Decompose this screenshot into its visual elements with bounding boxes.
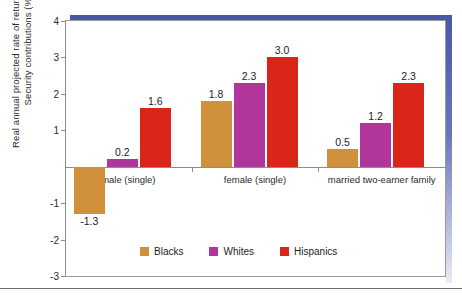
legend-label-hispanics: Hispanics — [294, 246, 337, 257]
bar-value-label: 1.2 — [360, 110, 391, 122]
decorative-right-bar — [446, 15, 452, 283]
y-tick-mark — [61, 203, 65, 204]
category-divider-tick — [318, 167, 319, 172]
bar-value-label: 3.0 — [267, 44, 298, 56]
y-tick-label: 4 — [53, 16, 59, 27]
legend-item-blacks[interactable]: Blacks — [140, 246, 183, 257]
chart-plot-area: 4321-1-2-3male (single)-1.30.21.6female … — [65, 21, 445, 276]
legend-swatch-hispanics — [280, 247, 289, 256]
legend-item-whites[interactable]: Whites — [209, 246, 254, 257]
bottom-divider — [0, 288, 462, 289]
bar-value-label: 1.6 — [140, 95, 171, 107]
x-category-label: female (single) — [224, 174, 286, 185]
bar-value-label: 1.8 — [201, 88, 232, 100]
y-tick-label: 2 — [53, 88, 59, 99]
y-tick-mark — [61, 276, 65, 277]
bar-value-label: 2.3 — [393, 70, 424, 82]
y-tick-label: -3 — [50, 271, 59, 282]
legend-swatch-blacks — [140, 247, 149, 256]
y-tick-label: -1 — [50, 198, 59, 209]
y-tick-label: 3 — [53, 52, 59, 63]
chart-legend: Blacks Whites Hispanics — [140, 246, 337, 257]
bar-whites-1[interactable] — [234, 83, 265, 167]
y-axis-line — [65, 21, 66, 276]
y-tick-label: -2 — [50, 234, 59, 245]
bar-hispanics-1[interactable] — [267, 57, 298, 166]
bar-blacks-2[interactable] — [327, 149, 358, 167]
y-tick-mark — [61, 240, 65, 241]
zero-baseline — [65, 167, 445, 168]
x-category-label: married two-earner family — [328, 174, 436, 185]
y-tick-label: 1 — [53, 125, 59, 136]
bar-blacks-0[interactable] — [74, 167, 105, 214]
bar-value-label: 2.3 — [234, 70, 265, 82]
y-axis-title: Real annual projected rate of return on … — [10, 0, 34, 160]
legend-label-whites: Whites — [223, 246, 254, 257]
y-tick-mark — [61, 94, 65, 95]
y-tick-mark — [61, 57, 65, 58]
bar-blacks-1[interactable] — [201, 101, 232, 167]
bar-value-label: 0.5 — [327, 136, 358, 148]
bar-hispanics-2[interactable] — [393, 83, 424, 167]
y-tick-mark — [61, 130, 65, 131]
x-category-label: male (single) — [101, 174, 155, 185]
y-tick-mark — [61, 21, 65, 22]
bar-hispanics-0[interactable] — [140, 108, 171, 166]
bar-value-label: 0.2 — [107, 146, 138, 158]
clipped-caption-text — [55, 0, 415, 3]
category-divider-tick — [192, 167, 193, 172]
legend-item-hispanics[interactable]: Hispanics — [280, 246, 337, 257]
legend-swatch-whites — [209, 247, 218, 256]
bar-whites-2[interactable] — [360, 123, 391, 167]
bar-whites-0[interactable] — [107, 159, 138, 166]
legend-label-blacks: Blacks — [154, 246, 183, 257]
bar-value-label: -1.3 — [74, 215, 105, 227]
